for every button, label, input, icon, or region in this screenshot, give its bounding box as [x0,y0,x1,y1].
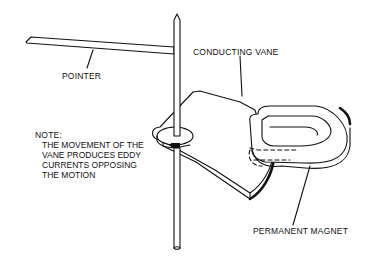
pointer-leader-line [87,50,93,68]
magnet-leader-line [293,166,310,225]
pointer-arm [26,37,174,54]
permanent-magnet [249,106,350,168]
permanent-magnet-label: PERMANENT MAGNET [253,226,348,236]
note-line: THE MOVEMENT OF THE [42,140,144,150]
conducting-vane-label: CONDUCTING VANE [193,47,279,57]
note-heading: NOTE: [35,130,62,140]
note-text: THE MOVEMENT OF THE VANE PRODUCES EDDY C… [42,140,144,180]
note-line: THE MOTION [42,170,144,180]
eddy-current-damping-diagram: POINTER CONDUCTING VANE PERMANENT MAGNET… [0,0,381,263]
note-line: CURRENTS OPPOSING [42,160,144,170]
pointer-label: POINTER [62,71,101,81]
spindle-shaft [174,14,180,249]
note-line: VANE PRODUCES EDDY [42,150,144,160]
vane-leader-line [240,56,242,96]
